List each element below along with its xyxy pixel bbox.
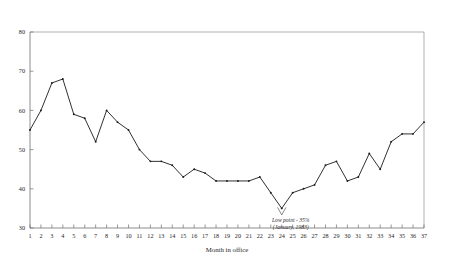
data-point (248, 180, 250, 182)
x-tick-label: 28 (322, 232, 328, 239)
y-tick-label: 40 (19, 185, 25, 192)
x-tick-label: 25 (290, 232, 296, 239)
x-tick-label: 19 (224, 232, 230, 239)
x-tick-label: 5 (72, 232, 75, 239)
x-tick-label: 6 (83, 232, 86, 239)
data-point (237, 180, 239, 182)
data-point (303, 188, 305, 190)
x-tick-label: 11 (136, 232, 142, 239)
annotation-line-2: (January, 1983) (273, 224, 309, 231)
x-tick-label: 8 (105, 232, 108, 239)
data-point (95, 141, 97, 143)
data-point (412, 133, 414, 135)
x-tick-label: 21 (246, 232, 252, 239)
data-point (346, 180, 348, 182)
annotation-line-1: Low point - 35% (271, 217, 310, 223)
x-tick-label: 22 (257, 232, 263, 239)
x-tick-label: 35 (399, 232, 405, 239)
x-tick-label: 13 (158, 232, 164, 239)
data-point (281, 207, 283, 209)
x-tick-label: 20 (235, 232, 241, 239)
data-point (270, 192, 272, 194)
x-tick-label: 1 (28, 232, 31, 239)
data-point (160, 160, 162, 162)
data-point (51, 82, 53, 84)
data-point (259, 176, 261, 178)
x-tick-label: 23 (268, 232, 274, 239)
y-tick-label: 50 (19, 146, 25, 153)
data-point (106, 109, 108, 111)
data-point (423, 121, 425, 123)
x-tick-label: 9 (116, 232, 119, 239)
data-point (390, 141, 392, 143)
data-point (138, 149, 140, 151)
y-tick-label: 60 (19, 107, 25, 114)
data-point (215, 180, 217, 182)
x-axis-title: Month in office (206, 246, 249, 253)
x-tick-label: 15 (180, 232, 186, 239)
data-point (117, 121, 119, 123)
data-point (357, 176, 359, 178)
data-point (401, 133, 403, 135)
x-tick-label: 18 (213, 232, 219, 239)
low-point-annotation: Low point - 35% (January, 1983) (271, 207, 310, 231)
x-tick-label: 3 (50, 232, 53, 239)
x-tick-label: 24 (279, 232, 285, 239)
x-tick-label: 33 (377, 232, 383, 239)
x-tick-label: 36 (410, 232, 416, 239)
x-tick-label: 10 (125, 232, 131, 239)
data-point (171, 164, 173, 166)
x-tick-label: 2 (39, 232, 42, 239)
x-tick-label: 31 (355, 232, 361, 239)
y-tick-label: 30 (19, 224, 25, 231)
plot-frame (30, 32, 424, 228)
y-tick-label: 80 (19, 28, 25, 35)
data-point (325, 164, 327, 166)
x-tick-label: 30 (344, 232, 350, 239)
x-tick-label: 16 (191, 232, 197, 239)
approval-rating-figure: 304050607080 123456789101112131415161718… (0, 0, 451, 264)
x-tick-label: 7 (94, 232, 97, 239)
data-point (62, 78, 64, 80)
approval-rating-line (30, 79, 424, 208)
x-tick-label: 29 (333, 232, 339, 239)
data-point (73, 113, 75, 115)
x-tick-label: 17 (202, 232, 208, 239)
data-point (368, 153, 370, 155)
data-point (193, 168, 195, 170)
x-tick-label: 14 (169, 232, 175, 239)
x-tick-label: 32 (366, 232, 372, 239)
data-point (335, 160, 337, 162)
data-point (204, 172, 206, 174)
x-tick-label: 26 (301, 232, 307, 239)
data-point (182, 176, 184, 178)
data-point (292, 192, 294, 194)
x-tick-label: 37 (421, 232, 427, 239)
data-point (226, 180, 228, 182)
data-point (40, 109, 42, 111)
approval-rating-points (29, 78, 425, 209)
x-tick-label: 27 (311, 232, 317, 239)
y-axis: 304050607080 (19, 28, 34, 231)
x-axis: 1234567891011121314151617181920212223242… (28, 225, 427, 239)
data-point (29, 129, 31, 131)
data-point (314, 184, 316, 186)
x-tick-label: 4 (61, 232, 64, 239)
line-chart: 304050607080 123456789101112131415161718… (0, 0, 451, 264)
data-point (149, 160, 151, 162)
data-point (128, 129, 130, 131)
data-point (379, 168, 381, 170)
data-point (84, 117, 86, 119)
y-tick-label: 70 (19, 67, 25, 74)
x-tick-label: 12 (147, 232, 153, 239)
x-tick-label: 34 (388, 232, 394, 239)
